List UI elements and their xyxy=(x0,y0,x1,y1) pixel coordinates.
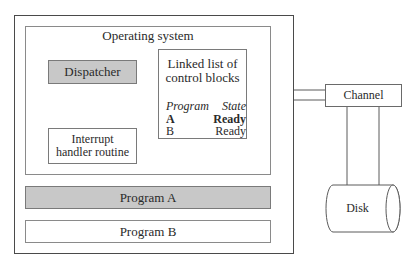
column-state: State xyxy=(222,100,246,113)
channel-label: Channel xyxy=(344,88,384,103)
table-row: B Ready xyxy=(166,125,246,138)
table-header: Program State xyxy=(166,100,246,113)
os-title: Operating system xyxy=(25,28,271,44)
linked-list-title-line1: Linked list of xyxy=(159,57,246,71)
channel-box: Channel xyxy=(325,84,402,107)
program-a-box: Program A xyxy=(25,186,271,209)
column-program: Program xyxy=(166,100,209,113)
row-program: B xyxy=(166,125,174,138)
linked-list-title: Linked list of control blocks xyxy=(159,57,246,85)
program-b-label: Program B xyxy=(120,224,177,240)
linked-list-title-line2: control blocks xyxy=(159,71,246,85)
linked-list-box: Linked list of control blocks Program St… xyxy=(158,49,247,139)
interrupt-label-line2: handler routine xyxy=(56,146,129,159)
interrupt-handler-box: Interrupt handler routine xyxy=(48,128,137,164)
program-a-label: Program A xyxy=(120,190,177,206)
disk-label: Disk xyxy=(325,201,390,216)
control-block-table: Program State A Ready B Ready xyxy=(166,100,246,138)
dispatcher-box: Dispatcher xyxy=(48,60,137,84)
program-b-box: Program B xyxy=(25,220,271,243)
dispatcher-label: Dispatcher xyxy=(64,64,120,80)
row-state: Ready xyxy=(215,125,246,138)
